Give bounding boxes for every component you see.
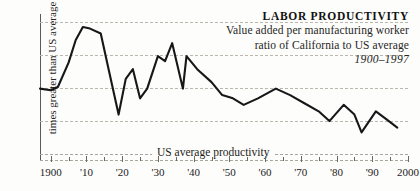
x-tick-1955 (247, 157, 248, 161)
chart-subtitle-line-1: Value added per manufacturing worker (226, 23, 409, 37)
chart-figure: 1.4 1.3 1.2 1.1 1.0 times greater than U… (0, 0, 420, 191)
x-tick-label-1960: '60 (259, 166, 272, 178)
x-tick-label-1940: '40 (187, 166, 200, 178)
x-tick-label-2000: 2000 (397, 166, 419, 178)
x-tick-label-1970: '70 (294, 166, 307, 178)
chart-year-range: 1900–1997 (226, 52, 409, 66)
x-tick-label-1910: '10 (80, 166, 93, 178)
x-tick-1935 (176, 157, 177, 161)
x-tick-label-1920: '20 (116, 166, 129, 178)
x-tick-1930 (158, 156, 159, 162)
chart-title: LABOR PRODUCTIVITY (226, 9, 409, 23)
x-tick-1910 (86, 156, 87, 162)
x-tick-1940 (194, 156, 195, 162)
x-tick-1985 (354, 157, 355, 161)
x-tick-1945 (212, 157, 213, 161)
x-tick-1920 (122, 156, 123, 162)
x-tick-1900 (51, 156, 52, 162)
x-tick-1965 (283, 157, 284, 161)
x-tick-1970 (301, 156, 302, 162)
x-tick-1960 (265, 156, 266, 162)
x-tick-1990 (372, 156, 373, 162)
x-tick-label-1950: '50 (223, 166, 236, 178)
x-tick-label-1980: '80 (330, 166, 343, 178)
chart-subtitle-line-2: ratio of California to US average (226, 38, 409, 52)
x-axis: 1900'10'20'30'40'50'60'70'80'902000 (40, 160, 408, 190)
x-tick-1915 (104, 157, 105, 161)
x-tick-1975 (319, 157, 320, 161)
x-tick-1905 (69, 157, 70, 161)
title-block: LABOR PRODUCTIVITY Value added per manuf… (226, 9, 409, 67)
x-tick-label-1900: 1900 (40, 166, 62, 178)
x-tick-1995 (390, 157, 391, 161)
x-tick-1980 (337, 156, 338, 162)
x-tick-2000 (408, 156, 409, 162)
x-tick-1925 (140, 157, 141, 161)
x-tick-label-1930: '30 (151, 166, 164, 178)
baseline-annotation: US average productivity (152, 146, 274, 158)
x-tick-label-1990: '90 (366, 166, 379, 178)
x-axis-line (40, 160, 408, 161)
x-tick-1950 (229, 156, 230, 162)
